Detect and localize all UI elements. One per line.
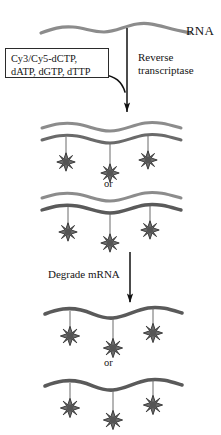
reagent-line-2: dATP, dGTP, dTTP [11, 65, 103, 78]
panel-single-a [45, 307, 182, 357]
degrade-mrna-label: Degrade mRNA [48, 268, 120, 281]
rna-strand [42, 192, 181, 201]
panel-single-b [45, 379, 182, 429]
fluorophore-star [60, 326, 79, 345]
panel-duplex-b [42, 192, 181, 252]
fluorophore-star [139, 151, 157, 169]
fluorophore-star [141, 221, 159, 239]
fluorophore-star [143, 323, 162, 342]
fluorophore-star [59, 223, 77, 241]
or-label-lower: or [104, 357, 113, 370]
fluorophore-star [103, 410, 122, 429]
reagent-box: Cy3/Cy5-dCTP, dATP, dGTP, dTTP [5, 48, 109, 78]
panel-duplex-a [42, 122, 181, 182]
fluorophore-star [60, 398, 79, 417]
reverse-transcriptase-arrow [124, 28, 130, 112]
fluorophore-star [101, 234, 119, 252]
or-label-upper: or [104, 178, 113, 191]
reagent-line-1: Cy3/Cy5-dCTP, [11, 52, 103, 65]
rna-template-strand [41, 23, 190, 33]
cdna-strand [42, 204, 181, 213]
rna-strand [42, 122, 181, 131]
degrade-mrna-arrow [127, 252, 133, 303]
rna-label: RNA [186, 25, 214, 38]
fluorophore-star [103, 338, 122, 357]
diagram-canvas: RNA Cy3/Cy5-dCTP, dATP, dGTP, dTTP Rever… [0, 0, 221, 435]
reverse-transcriptase-label-line2: transcriptase [138, 64, 194, 77]
cdna-strand [45, 307, 182, 318]
fluorophore-star [57, 153, 75, 171]
fluorophore-star [143, 395, 162, 414]
cdna-strand [42, 134, 181, 143]
reverse-transcriptase-label-line1: Reverse [138, 51, 173, 64]
cdna-strand [45, 379, 182, 390]
